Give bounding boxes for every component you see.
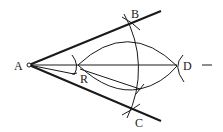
segment-a-r: [29, 65, 74, 74]
arc-bc: [124, 14, 138, 118]
lens-lower-arc: [78, 65, 177, 90]
label-c: C: [135, 116, 143, 130]
label-r: R: [80, 72, 88, 86]
ray-ab: [29, 11, 161, 65]
label-b: B: [131, 7, 139, 21]
label-d: D: [183, 59, 192, 73]
vertex-a-marker: [27, 63, 31, 67]
construction-diagram: A B C D R: [0, 0, 223, 132]
label-a: A: [14, 59, 23, 73]
lens-upper-arc: [78, 42, 177, 66]
ray-ac: [29, 65, 161, 121]
